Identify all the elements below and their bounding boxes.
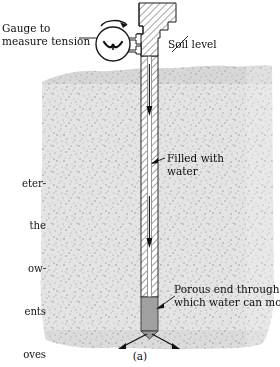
body-line: ents xyxy=(0,305,46,319)
label-gauge-to-measure-tension: Gauge to measure tension xyxy=(2,22,90,48)
label-filled-with-water: Filled with water xyxy=(167,152,224,178)
tube-left-wall xyxy=(141,56,148,297)
body-line: ow- xyxy=(0,262,46,276)
label-porous-end: Porous end through which water can move xyxy=(174,283,280,309)
tension-gauge xyxy=(96,21,141,61)
body-line: eter- xyxy=(0,177,46,191)
body-line: the xyxy=(0,219,46,233)
page-body-text-column: eter- the ow- ents oves f the the nsio- … xyxy=(0,148,46,367)
porous-cup xyxy=(141,297,158,331)
tube-right-wall xyxy=(152,56,159,297)
body-line: oves xyxy=(0,348,46,362)
label-soil-level: Soil level xyxy=(168,38,217,51)
tensiometer-figure: Gauge to measure tension Soil level Fill… xyxy=(0,0,280,367)
